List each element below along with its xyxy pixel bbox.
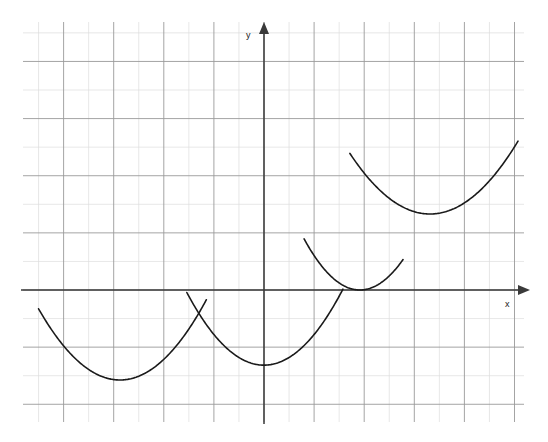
graph-svg: x y — [0, 0, 548, 442]
y-axis-label: y — [246, 30, 251, 40]
graph-canvas: x y — [0, 0, 548, 442]
x-axis-label: x — [505, 299, 510, 309]
